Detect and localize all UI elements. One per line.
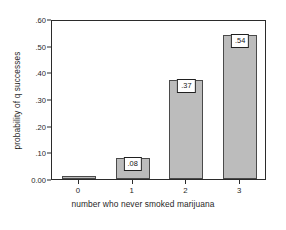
x-tick-mark: [78, 180, 79, 184]
bar-slot: .37: [169, 21, 203, 179]
bar[interactable]: [62, 176, 96, 179]
y-axis-tick-labels: 0.00.10.20.30.40.50.60: [22, 0, 46, 230]
y-tick-label: .20: [24, 122, 46, 131]
bar-value-label: .08: [123, 157, 141, 171]
y-tick-label: .50: [24, 42, 46, 51]
y-axis-title: probability of q successes: [13, 26, 22, 176]
bar-value-label: .37: [177, 79, 195, 93]
bar-slot: .08: [116, 21, 150, 179]
plot-area: .08.37.54: [51, 20, 266, 180]
y-tick-label: 0.00: [24, 176, 46, 185]
x-tick-label: 3: [227, 186, 251, 195]
y-tick-label: .60: [24, 16, 46, 25]
x-axis-title: number who never smoked marijuana: [0, 199, 286, 209]
bar-slot: .54: [223, 21, 257, 179]
x-tick-mark: [132, 180, 133, 184]
x-axis-tick-labels: 0123: [51, 186, 266, 198]
x-tick-label: 1: [120, 186, 144, 195]
y-tick-label: .10: [24, 149, 46, 158]
bar-value-label: .54: [231, 34, 249, 48]
y-tick-label: .30: [24, 96, 46, 105]
y-tick-label: .40: [24, 69, 46, 78]
x-tick-label: 0: [66, 186, 90, 195]
bar[interactable]: [169, 80, 203, 179]
x-axis-tick-marks: [51, 180, 266, 185]
x-tick-label: 2: [173, 186, 197, 195]
bar-chart-figure: probability of q successes 0.00.10.20.30…: [0, 0, 286, 230]
bar-series: .08.37.54: [52, 21, 265, 179]
x-tick-mark: [185, 180, 186, 184]
bar-slot: [62, 21, 96, 179]
bar[interactable]: [223, 35, 257, 179]
x-tick-mark: [239, 180, 240, 184]
